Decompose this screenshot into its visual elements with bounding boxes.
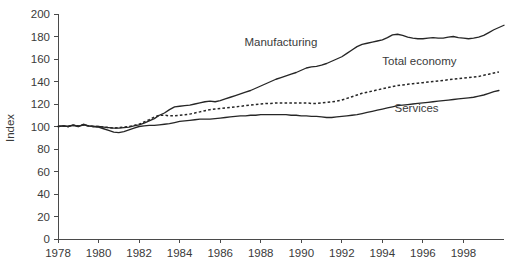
series-labels: ManufacturingTotal economyServices bbox=[245, 36, 457, 114]
y-axis-title: Index bbox=[4, 114, 16, 142]
x-tick-label: 1988 bbox=[248, 247, 274, 259]
series-label-services: Services bbox=[395, 102, 439, 114]
x-tick-label: 1992 bbox=[329, 247, 355, 259]
x-tick-label: 1990 bbox=[288, 247, 314, 259]
y-tick-label: 0 bbox=[44, 233, 50, 245]
x-tick-label: 1996 bbox=[410, 247, 436, 259]
y-tick-label: 140 bbox=[31, 76, 50, 88]
x-tick-label: 1980 bbox=[86, 247, 112, 259]
x-tick-label: 1978 bbox=[45, 247, 71, 259]
y-tick-label: 180 bbox=[31, 31, 50, 43]
series-label-manufacturing: Manufacturing bbox=[245, 36, 318, 48]
series-line-total-economy bbox=[58, 72, 499, 128]
y-tick-label: 200 bbox=[31, 8, 50, 20]
x-tick-label: 1982 bbox=[126, 247, 152, 259]
series-label-total-economy: Total economy bbox=[382, 55, 456, 67]
y-tick-label: 100 bbox=[31, 121, 50, 133]
y-tick-label: 80 bbox=[37, 143, 50, 155]
x-tick-label: 1984 bbox=[167, 247, 193, 259]
y-tick-label: 120 bbox=[31, 98, 50, 110]
y-tick-label: 60 bbox=[37, 166, 50, 178]
y-tick-label: 40 bbox=[37, 188, 50, 200]
y-axis: 020406080100120140160180200 bbox=[31, 8, 58, 245]
chart-container: 020406080100120140160180200 197819801982… bbox=[0, 0, 509, 271]
x-tick-label: 1998 bbox=[451, 247, 477, 259]
x-axis: 1978198019821984198619881990199219941996… bbox=[45, 239, 476, 259]
line-chart: 020406080100120140160180200 197819801982… bbox=[0, 0, 509, 271]
y-tick-label: 20 bbox=[37, 211, 50, 223]
x-tick-label: 1986 bbox=[207, 247, 233, 259]
y-tick-label: 160 bbox=[31, 53, 50, 65]
x-tick-label: 1994 bbox=[370, 247, 396, 259]
